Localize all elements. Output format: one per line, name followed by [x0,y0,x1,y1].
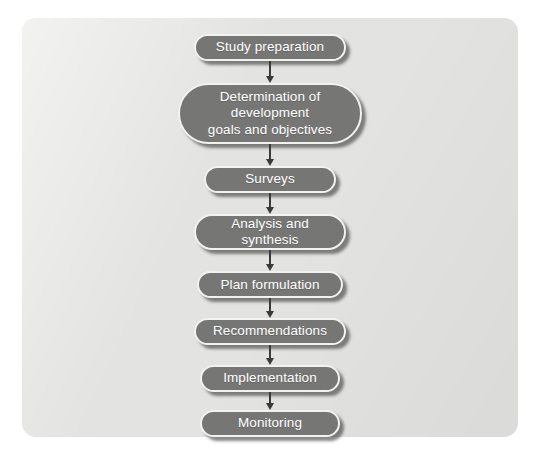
arrow-shaft [269,193,271,208]
flow-arrow-2 [266,144,275,166]
arrow-head-icon [266,311,274,318]
flow-node-monitoring[interactable]: Monitoring [200,410,340,437]
arrow-shaft [269,298,271,312]
arrow-head-icon [266,264,274,271]
flow-arrow-6 [266,345,275,365]
flow-node-label: Implementation [223,370,317,386]
flow-arrow-4 [266,250,275,271]
flow-node-label: Analysis and synthesis [210,216,330,249]
flow-node-study-preparation[interactable]: Study preparation [194,34,346,61]
flow-arrow-1 [266,61,275,83]
flow-node-label: Recommendations [213,323,327,339]
flow-node-recommendations[interactable]: Recommendations [194,318,346,345]
arrow-shaft [269,250,271,265]
flow-arrow-5 [266,298,275,318]
flow-node-determination-goals[interactable]: Determination of development goals and o… [178,83,362,144]
arrow-shaft [269,61,271,77]
flow-node-label: Plan formulation [220,277,319,293]
arrow-head-icon [266,159,274,166]
flow-node-label: Study preparation [216,39,324,55]
flowchart: Study preparation Determination of devel… [22,18,518,437]
flow-arrow-3 [266,193,275,214]
flow-arrow-7 [266,392,275,410]
flow-node-label: Monitoring [238,415,302,431]
arrow-head-icon [266,358,274,365]
arrow-head-icon [266,403,274,410]
flow-node-analysis-synthesis[interactable]: Analysis and synthesis [194,214,346,251]
arrow-head-icon [266,76,274,83]
arrow-head-icon [266,207,274,214]
arrow-shaft [269,144,271,160]
flow-node-label: Determination of development goals and o… [196,89,344,138]
arrow-shaft [269,345,271,359]
flow-node-implementation[interactable]: Implementation [200,365,340,392]
flow-node-surveys[interactable]: Surveys [204,166,336,193]
flow-node-plan-formulation[interactable]: Plan formulation [197,271,343,298]
figure-panel: Study preparation Determination of devel… [22,18,518,437]
flow-node-label: Surveys [245,171,294,187]
